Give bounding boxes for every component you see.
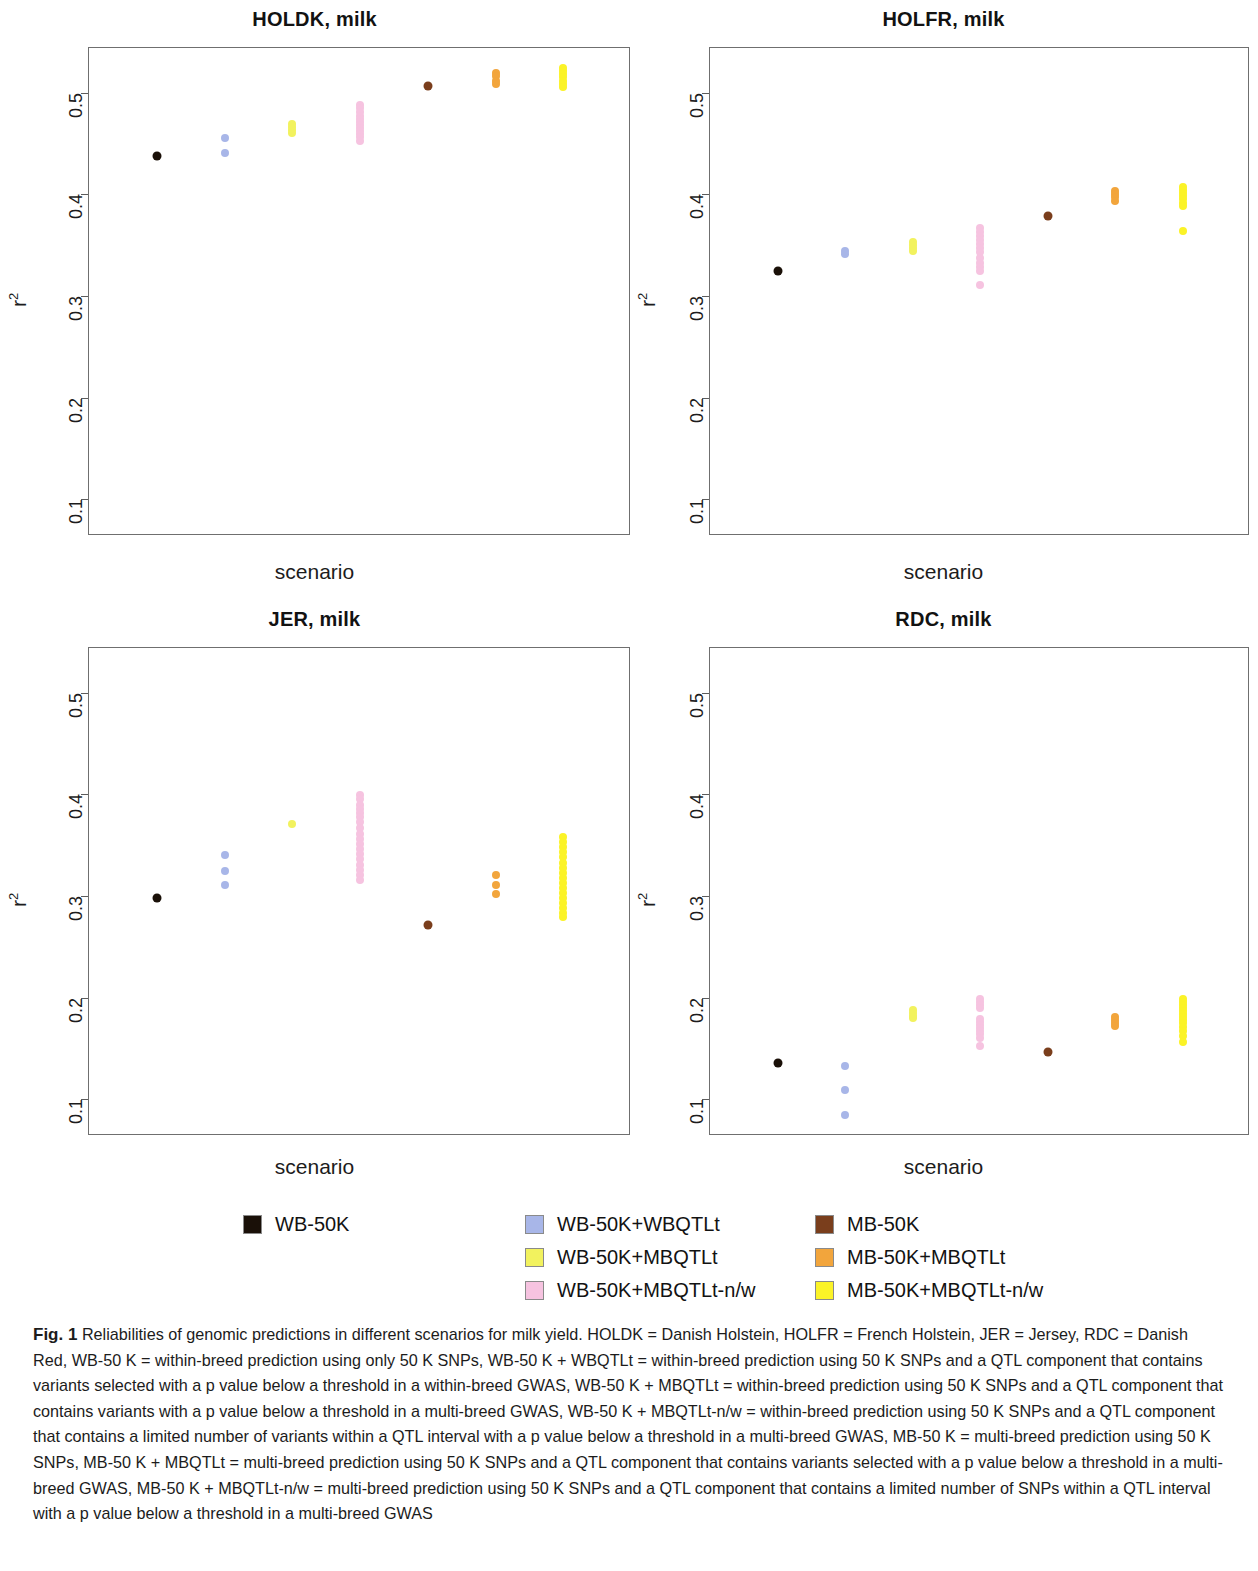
data-point <box>492 80 500 88</box>
legend-item: MB-50K <box>815 1208 1043 1241</box>
data-point <box>773 266 782 275</box>
data-point <box>492 890 500 898</box>
y-tick-label: 0.1 <box>66 1099 87 1124</box>
data-point <box>1179 227 1187 235</box>
plot-area <box>89 48 629 534</box>
legend-column-1: WB-50K+WBQTLtWB-50K+MBQTLtWB-50K+MBQTLt-… <box>525 1208 755 1307</box>
y-tick-label: 0.2 <box>66 398 87 423</box>
y-tick-label: 0.2 <box>66 998 87 1023</box>
caption-text: Reliabilities of genomic predictions in … <box>33 1325 1223 1522</box>
data-point <box>1043 211 1052 220</box>
data-point <box>1179 202 1187 210</box>
y-tick-label: 0.2 <box>687 398 708 423</box>
data-point <box>152 894 161 903</box>
legend-column-2: MB-50KMB-50K+MBQTLtMB-50K+MBQTLt-n/w <box>815 1208 1043 1307</box>
legend-item: WB-50K <box>243 1208 349 1241</box>
data-point <box>356 876 364 884</box>
data-point <box>221 134 229 142</box>
data-point <box>221 867 229 875</box>
legend-swatch <box>525 1248 544 1267</box>
legend-label: MB-50K+MBQTLt <box>847 1246 1005 1269</box>
legend-label: WB-50K+MBQTLt-n/w <box>557 1279 755 1302</box>
legend-label: WB-50K <box>275 1213 349 1236</box>
y-tick-label: 0.5 <box>687 693 708 718</box>
y-tick-label: 0.1 <box>687 499 708 524</box>
y-tick-label: 0.5 <box>66 693 87 718</box>
y-tick-label: 0.2 <box>687 998 708 1023</box>
legend-label: MB-50K <box>847 1213 919 1236</box>
data-point <box>1179 1038 1187 1046</box>
data-point <box>841 1111 849 1119</box>
x-axis-label: scenario <box>629 560 1258 584</box>
y-tick-label: 0.1 <box>687 1099 708 1124</box>
legend-label: WB-50K+WBQTLt <box>557 1213 720 1236</box>
panel-holdk: HOLDK, milk r2 0.10.20.30.40.5 scenario <box>0 0 629 600</box>
data-point <box>976 281 984 289</box>
data-point <box>1111 1022 1119 1030</box>
data-point <box>1043 1047 1052 1056</box>
y-tick-label: 0.4 <box>687 794 708 819</box>
data-point <box>909 247 917 255</box>
y-axis-label: r2 <box>6 893 31 907</box>
data-point <box>976 1004 984 1012</box>
y-tick-label: 0.3 <box>687 296 708 321</box>
plot-frame <box>709 647 1249 1135</box>
legend-item: WB-50K+MBQTLt <box>525 1241 755 1274</box>
data-point <box>152 151 161 160</box>
data-point <box>909 1014 917 1022</box>
plot-area <box>710 648 1248 1134</box>
y-tick-label: 0.3 <box>687 896 708 921</box>
y-tick-label: 0.4 <box>66 194 87 219</box>
data-point <box>841 1086 849 1094</box>
data-point <box>356 137 364 145</box>
caption-prefix: Fig. 1 <box>33 1325 77 1344</box>
y-tick-label: 0.4 <box>66 794 87 819</box>
plot-frame <box>88 647 630 1135</box>
x-axis-label: scenario <box>629 1155 1258 1179</box>
plot-frame <box>88 47 630 535</box>
legend-label: WB-50K+MBQTLt <box>557 1246 718 1269</box>
panel-title: RDC, milk <box>629 608 1258 631</box>
panel-holfr: HOLFR, milk r2 0.10.20.30.40.5 scenario <box>629 0 1258 600</box>
plot-frame <box>709 47 1249 535</box>
panel-title: HOLFR, milk <box>629 8 1258 31</box>
data-point <box>221 851 229 859</box>
data-point <box>492 871 500 879</box>
figure-panels: HOLDK, milk r2 0.10.20.30.40.5 scenario … <box>0 0 1258 1200</box>
data-point <box>1111 197 1119 205</box>
legend-item: WB-50K+MBQTLt-n/w <box>525 1274 755 1307</box>
data-point <box>423 81 432 90</box>
legend-swatch <box>525 1281 544 1300</box>
data-point <box>221 881 229 889</box>
data-point <box>221 149 229 157</box>
panel-rdc: RDC, milk r2 0.10.20.30.40.5 scenario <box>629 600 1258 1200</box>
legend-item: WB-50K+WBQTLt <box>525 1208 755 1241</box>
y-axis-label: r2 <box>635 893 660 907</box>
y-tick-label: 0.1 <box>66 499 87 524</box>
data-point <box>288 129 296 137</box>
legend-column-0: WB-50K <box>243 1208 349 1241</box>
legend-label: MB-50K+MBQTLt-n/w <box>847 1279 1043 1302</box>
legend-swatch <box>243 1215 262 1234</box>
plot-area <box>710 48 1248 534</box>
data-point <box>841 1062 849 1070</box>
y-tick-label: 0.5 <box>66 93 87 118</box>
legend-item: MB-50K+MBQTLt-n/w <box>815 1274 1043 1307</box>
y-axis-label: r2 <box>635 293 660 307</box>
panel-jer: JER, milk r2 0.10.20.30.40.5 scenario <box>0 600 629 1200</box>
data-point <box>423 920 432 929</box>
y-tick-label: 0.4 <box>687 194 708 219</box>
data-point <box>841 250 849 258</box>
legend-swatch <box>815 1281 834 1300</box>
data-point <box>559 913 567 921</box>
y-axis-label: r2 <box>6 293 31 307</box>
plot-area <box>89 648 629 1134</box>
data-point <box>976 1042 984 1050</box>
panel-title: JER, milk <box>0 608 629 631</box>
legend-swatch <box>815 1248 834 1267</box>
panel-title: HOLDK, milk <box>0 8 629 31</box>
data-point <box>976 267 984 275</box>
legend: WB-50K WB-50K+WBQTLtWB-50K+MBQTLtWB-50K+… <box>0 1208 1258 1318</box>
legend-swatch <box>815 1215 834 1234</box>
data-point <box>492 881 500 889</box>
